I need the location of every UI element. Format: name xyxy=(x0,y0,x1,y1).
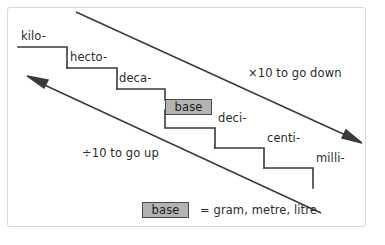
legend-chip-label: base xyxy=(152,203,180,217)
step-chip-base: base xyxy=(165,99,212,115)
figure-canvas: kilo- hecto- deca- base deci- centi- mil… xyxy=(0,0,385,245)
step-label-deca: deca- xyxy=(119,71,151,85)
step-riser-milli xyxy=(264,168,313,188)
step-label-kilo: kilo- xyxy=(21,29,46,43)
step-label-centi: centi- xyxy=(267,131,300,145)
step-riser-deca xyxy=(117,89,165,100)
step-label-deci: deci- xyxy=(218,111,247,125)
multiply-arrow-label: ×10 to go down xyxy=(248,66,342,80)
divide-arrow-label: ÷10 to go up xyxy=(82,146,159,160)
step-riser-kilo xyxy=(18,47,67,68)
step-riser-base-to-deci xyxy=(165,110,215,148)
step-label-base: base xyxy=(175,100,203,114)
divide-arrow-head xyxy=(27,76,48,88)
multiply-arrow-head xyxy=(342,130,362,143)
step-label-milli: milli- xyxy=(316,151,345,165)
step-label-hecto: hecto- xyxy=(70,50,107,64)
legend-definition-text: = gram, metre, litre xyxy=(200,203,317,217)
legend-base-chip: base xyxy=(142,202,189,218)
staircase-and-arrows-graphics xyxy=(0,0,385,245)
step-riser-hecto xyxy=(67,68,117,89)
step-riser-centi xyxy=(215,148,264,168)
